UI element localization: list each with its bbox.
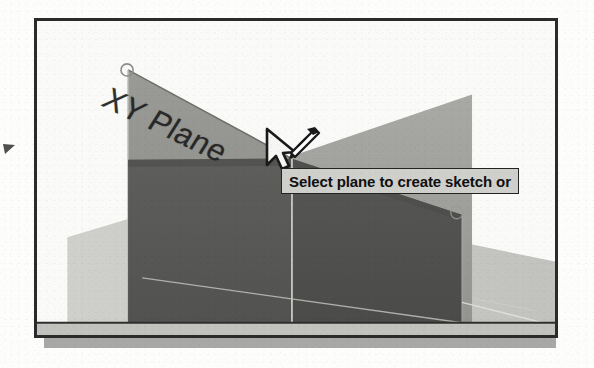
tooltip: Select plane to create sketch or: [281, 168, 519, 194]
viewport-floor-band: [37, 323, 555, 335]
leader-arrow-icon: [2, 141, 18, 157]
screenshot-frame: XY Plane Select plane to create sketch o…: [34, 18, 558, 338]
plane-corner-handle[interactable]: [121, 64, 133, 76]
page-root: XY Plane Select plane to create sketch o…: [0, 0, 594, 368]
cad-viewport[interactable]: XY Plane Select plane to create sketch o…: [37, 21, 555, 335]
